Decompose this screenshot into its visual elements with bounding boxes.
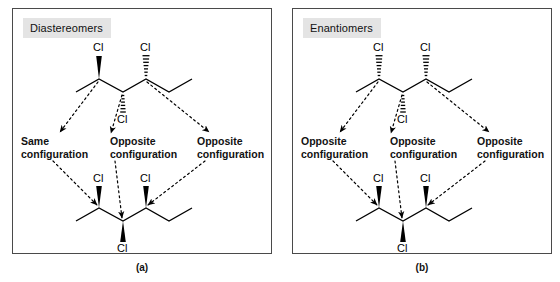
wedge-bond-c3-cl <box>120 221 126 242</box>
annotation-left: Opposite configuration <box>301 135 368 160</box>
atom-label-cl: Cl <box>373 42 383 53</box>
annotation-right: Opposite configuration <box>197 135 264 160</box>
annotation-right: Opposite configuration <box>477 135 544 160</box>
atom-label-cl: Cl <box>420 42 430 53</box>
carbon-skeleton <box>76 79 192 92</box>
arrow-bottom-c3 <box>115 161 122 218</box>
atom-label-cl: Cl <box>397 114 407 125</box>
stereochemistry-figure: Diastereomers <box>0 0 560 282</box>
arrow-bottom-c4 <box>148 161 205 205</box>
hash-bond-c4-cl <box>143 56 150 76</box>
annotation-left-line1: Same <box>21 135 49 147</box>
carbon-skeleton <box>76 208 192 221</box>
annotation-middle-line2: configuration <box>110 148 177 160</box>
annotation-middle: Opposite configuration <box>110 135 177 160</box>
caption-a: (a) <box>12 262 272 273</box>
annotation-left: Same configuration <box>21 135 88 160</box>
annotation-left-line2: configuration <box>301 148 368 160</box>
atom-label-cl: Cl <box>117 243 127 254</box>
annotation-left-line2: configuration <box>21 148 88 160</box>
annotation-right-line2: configuration <box>197 148 264 160</box>
atom-label-cl: Cl <box>93 42 103 53</box>
hash-bond-c4-cl <box>423 56 430 76</box>
annotation-right-line1: Opposite <box>477 135 523 147</box>
atom-label-cl: Cl <box>117 114 127 125</box>
annotation-left-line1: Opposite <box>301 135 347 147</box>
bottom-molecule-b <box>356 186 472 242</box>
atom-label-cl: Cl <box>420 173 430 184</box>
panel-enantiomers: Enantiomers <box>292 8 552 254</box>
atom-label-cl: Cl <box>397 243 407 254</box>
panel-diastereomers: Diastereomers <box>12 8 272 254</box>
annotation-middle: Opposite configuration <box>390 135 457 160</box>
annotation-middle-line1: Opposite <box>390 135 436 147</box>
wedge-bond-c3-cl <box>400 221 406 242</box>
arrow-bottom-c4 <box>428 161 485 205</box>
arrow-top-c4 <box>147 82 209 132</box>
annotation-middle-line2: configuration <box>390 148 457 160</box>
arrow-top-c2 <box>340 82 378 132</box>
arrow-top-c2 <box>60 82 98 132</box>
hash-bond-c3-cl <box>400 96 406 113</box>
hash-bond-c3-cl <box>120 96 126 113</box>
caption-b: (b) <box>292 262 552 273</box>
hash-bond-c2-cl <box>376 56 383 76</box>
atom-label-cl: Cl <box>140 42 150 53</box>
arrow-top-c4 <box>427 82 489 132</box>
annotation-right-line1: Opposite <box>197 135 243 147</box>
arrow-bottom-c2 <box>53 161 97 205</box>
wedge-bond-c2-cl <box>96 56 102 79</box>
annotation-right-line2: configuration <box>477 148 544 160</box>
carbon-skeleton <box>356 79 472 92</box>
annotation-middle-line1: Opposite <box>110 135 156 147</box>
atom-label-cl: Cl <box>93 173 103 184</box>
atom-label-cl: Cl <box>140 173 150 184</box>
atom-label-cl: Cl <box>373 173 383 184</box>
bottom-molecule-a <box>76 186 192 242</box>
carbon-skeleton <box>356 208 472 221</box>
arrow-bottom-c3 <box>395 161 402 218</box>
arrow-bottom-c2 <box>333 161 377 205</box>
